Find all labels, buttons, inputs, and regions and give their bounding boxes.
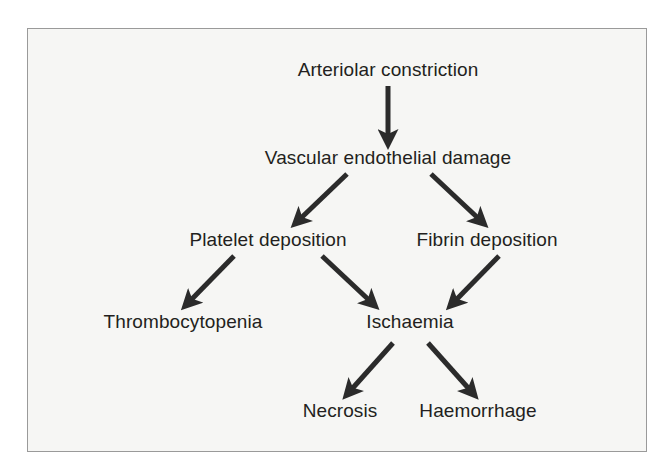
edge-damage-to-platelet-arrow-icon [300, 174, 347, 219]
figure-canvas: Arteriolar constrictionVascular endothel… [0, 0, 670, 473]
edge-platelet-to-ischaemia-arrow-icon [322, 256, 370, 301]
node-necrosis: Necrosis [303, 400, 378, 422]
node-platelet-deposition: Platelet deposition [189, 229, 346, 251]
node-vascular-endothelial-damage: Vascular endothelial damage [265, 147, 511, 169]
node-ischaemia: Ischaemia [366, 311, 454, 333]
node-fibrin-deposition: Fibrin deposition [416, 229, 557, 251]
edge-platelet-to-thrombocytopenia-arrow-icon [190, 256, 234, 301]
node-thrombocytopenia: Thrombocytopenia [104, 311, 263, 333]
node-haemorrhage: Haemorrhage [419, 400, 536, 422]
edge-fibrin-to-ischaemia-arrow-icon [455, 256, 499, 301]
node-arteriolar-constriction: Arteriolar constriction [298, 59, 479, 81]
edge-damage-to-fibrin-arrow-icon [431, 174, 479, 219]
edge-ischaemia-to-necrosis-arrow-icon [351, 343, 393, 390]
edge-ischaemia-to-haemorrhage-arrow-icon [428, 343, 470, 390]
